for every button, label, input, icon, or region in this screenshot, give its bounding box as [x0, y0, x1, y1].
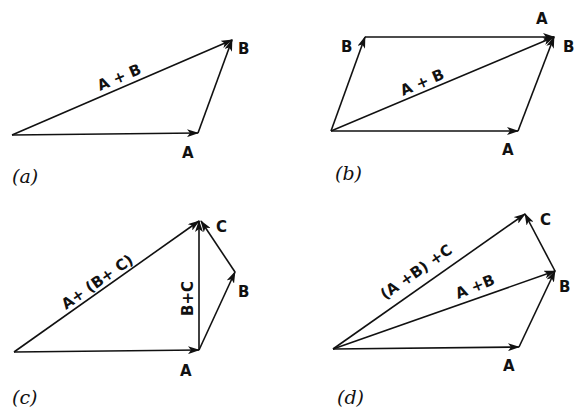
label-sum: A + B: [398, 65, 447, 100]
vector-addition-figure: A B A + B (a) A B A B A + B (b) A B C B+…: [0, 0, 582, 417]
vector-a: [333, 347, 519, 349]
label-b-left: B: [341, 38, 352, 56]
panel-c: A B C B+C A+ (B+ C) (c): [12, 218, 249, 408]
label-a-top: A: [536, 10, 548, 28]
caption-b: (b): [335, 162, 362, 184]
vector-a-plus-b-plus-c: [333, 214, 525, 349]
label-a-bottom: A: [502, 141, 514, 159]
label-b-plus-c: B+C: [179, 281, 197, 316]
label-b: B: [238, 40, 249, 58]
label-a: A: [503, 357, 515, 375]
caption-c: (c): [12, 386, 37, 408]
vector-b: [199, 272, 235, 350]
label-b: B: [238, 283, 249, 301]
label-a: A: [182, 144, 194, 162]
caption-d: (d): [337, 386, 364, 408]
label-b: B: [559, 278, 570, 296]
caption-a: (a): [12, 165, 38, 187]
panel-b: A B A B A + B (b): [331, 10, 574, 184]
panel-d: A B C A +B (A +B) +C (d): [333, 211, 570, 408]
vector-a: [12, 133, 198, 135]
vector-a-plus-b: [333, 271, 555, 349]
label-c: C: [540, 211, 551, 229]
vector-b-right: [518, 37, 554, 131]
vector-a-plus-b: [12, 40, 232, 135]
vector-a-plus-b: [331, 37, 554, 131]
label-b-right: B: [563, 38, 574, 56]
label-a-plus-b: A +B: [453, 271, 498, 303]
panel-a: A B A + B (a): [12, 40, 249, 187]
vector-a: [14, 350, 199, 352]
label-a: A: [180, 362, 192, 380]
label-sum: A+ (B+ C): [58, 251, 137, 314]
label-c: C: [216, 218, 227, 236]
vector-b: [198, 40, 232, 133]
